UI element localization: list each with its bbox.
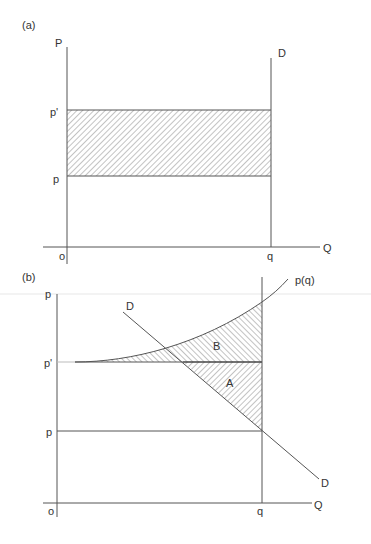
tick-q: q	[267, 250, 273, 262]
tick-q: q	[257, 505, 263, 517]
y-axis-label: p	[45, 288, 51, 300]
demand-label: D	[278, 47, 286, 59]
panel-b-label: (b)	[22, 271, 35, 283]
demand-label-bottom: D	[321, 477, 329, 489]
tick-p: p	[46, 426, 52, 438]
tick-p-prime: p'	[50, 106, 58, 118]
tick-p-prime: p'	[44, 357, 52, 369]
panel-b: (b) p p' p o q Q D D p(q) B A	[0, 271, 371, 517]
region-b	[75, 302, 262, 362]
shaded-rectangle	[67, 110, 271, 176]
x-axis-label: Q	[323, 242, 332, 254]
region-b-label: B	[213, 340, 220, 352]
demand-label-top: D	[126, 300, 134, 312]
figure-canvas: (a) P D p' p o q Q (b)	[0, 0, 371, 544]
tick-p: p	[53, 173, 59, 185]
origin-label: o	[59, 250, 65, 262]
x-axis-label: Q	[314, 499, 323, 511]
region-a-label: A	[226, 377, 234, 389]
panel-a-label: (a)	[22, 19, 35, 31]
origin-label: o	[48, 505, 54, 517]
y-axis-label: P	[55, 37, 62, 49]
panel-a: (a) P D p' p o q Q	[22, 19, 332, 264]
curve-label: p(q)	[295, 274, 315, 286]
